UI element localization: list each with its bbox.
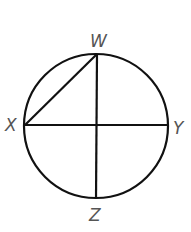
segment-wz [96,54,97,199]
segment-xw [25,54,97,125]
label-x: X [4,115,17,135]
circle-diagram: W X Y Z [0,0,191,232]
label-y: Y [173,118,185,138]
label-z: Z [88,205,101,225]
label-w: W [90,31,108,51]
